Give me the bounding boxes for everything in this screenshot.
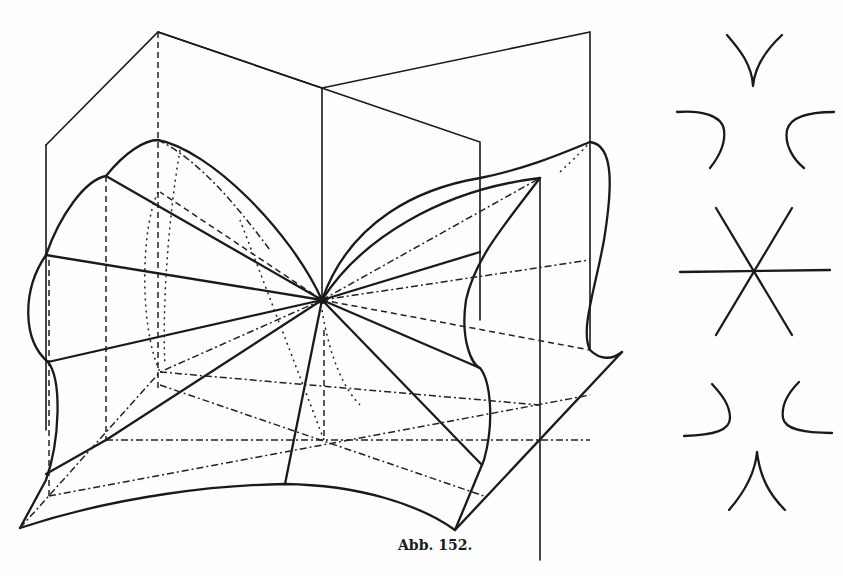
singular-point xyxy=(318,296,326,304)
plane-right xyxy=(158,32,590,560)
hidden-verticals xyxy=(49,32,324,496)
radial-lines-solid xyxy=(46,176,482,484)
figure-caption: Abb. 152. xyxy=(398,537,472,553)
surface-outline-left xyxy=(20,140,455,530)
section-4-curves-lower xyxy=(684,382,832,436)
surface-outline-right xyxy=(322,142,622,530)
section-3-three-lines xyxy=(680,208,830,335)
book-page: Abb. 152. xyxy=(0,0,843,576)
section-5-cusp-down xyxy=(729,452,785,510)
section-1-cusp-up xyxy=(727,35,782,86)
figure-152-main-diagram xyxy=(0,0,843,576)
plane-left xyxy=(46,32,322,430)
section-2-curves-upper xyxy=(677,112,834,168)
